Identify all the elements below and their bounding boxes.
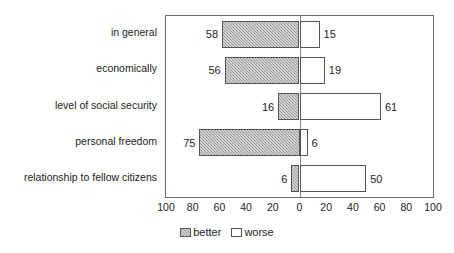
value-label-better-3: 75 — [169, 137, 195, 149]
x-tick-9: 80 — [400, 201, 412, 213]
legend-swatch-worse-icon — [231, 228, 242, 237]
category-label-level-of-social-security: level of social security — [0, 100, 157, 111]
x-axis-ticks: 100 80 60 40 20 0 20 40 60 80 100 — [165, 201, 434, 215]
x-tick-4: 20 — [267, 201, 279, 213]
bar-better-row-0 — [222, 21, 299, 48]
category-label-relationship-to-fellow-citizens: relationship to fellow citizens — [0, 172, 157, 183]
bar-better-row-2 — [278, 93, 299, 120]
bar-better-row-4 — [291, 165, 299, 192]
category-label-in-general: in general — [0, 27, 157, 38]
bar-worse-row-0 — [300, 21, 320, 48]
legend-label-better: better — [193, 226, 221, 238]
bar-worse-row-1 — [300, 57, 325, 84]
x-tick-8: 60 — [374, 201, 386, 213]
legend-item-worse: worse — [231, 226, 273, 238]
bar-better-row-3 — [199, 129, 299, 156]
category-label-personal-freedom: personal freedom — [0, 136, 157, 147]
value-label-better-0: 58 — [192, 28, 218, 40]
category-axis: in general economically level of social … — [0, 15, 162, 198]
value-label-worse-4: 50 — [370, 173, 382, 185]
bar-chart: in general economically level of social … — [0, 0, 454, 253]
bar-worse-row-2 — [300, 93, 381, 120]
x-tick-5: 0 — [297, 201, 303, 213]
value-label-worse-1: 19 — [329, 64, 341, 76]
x-tick-2: 60 — [214, 201, 226, 213]
value-label-better-2: 16 — [248, 101, 274, 113]
x-tick-7: 40 — [347, 201, 359, 213]
value-label-worse-2: 61 — [385, 101, 397, 113]
bar-worse-row-4 — [300, 165, 367, 192]
x-tick-10: 100 — [424, 201, 442, 213]
value-label-better-1: 56 — [195, 64, 221, 76]
x-tick-3: 40 — [240, 201, 252, 213]
x-tick-1: 80 — [187, 201, 199, 213]
bar-worse-row-3 — [300, 129, 308, 156]
legend-item-better: better — [180, 226, 221, 238]
x-tick-0: 100 — [157, 201, 175, 213]
bar-better-row-1 — [225, 57, 300, 84]
value-label-worse-3: 6 — [312, 137, 318, 149]
legend-swatch-better-icon — [180, 228, 191, 237]
legend-label-worse: worse — [244, 226, 273, 238]
legend: better worse — [0, 224, 454, 240]
value-label-better-4: 6 — [261, 173, 287, 185]
plot-area: 58 15 56 19 16 61 75 6 6 50 — [165, 15, 434, 198]
category-label-economically: economically — [0, 63, 157, 74]
x-tick-6: 20 — [320, 201, 332, 213]
value-label-worse-0: 15 — [324, 28, 336, 40]
